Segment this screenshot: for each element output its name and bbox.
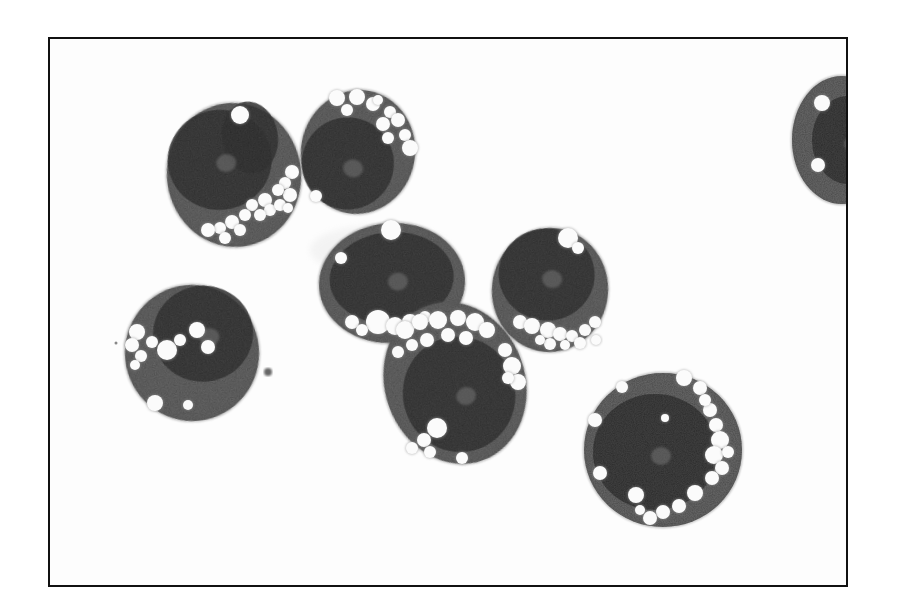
vacuole <box>502 372 514 384</box>
vacuole <box>283 203 293 213</box>
vacuole <box>588 413 602 427</box>
vacuole <box>535 335 545 345</box>
vacuole <box>234 224 246 236</box>
vacuole <box>616 381 628 393</box>
vacuole <box>174 334 186 346</box>
vacuole <box>441 328 455 342</box>
vacuole <box>553 327 567 341</box>
debris-particle <box>115 342 118 345</box>
vacuole <box>356 324 368 336</box>
vacuole <box>239 209 251 221</box>
vacuole <box>589 316 601 328</box>
vacuole <box>417 433 431 447</box>
vacuole <box>341 104 353 116</box>
vacuole <box>349 89 365 105</box>
nucleolus <box>651 447 671 465</box>
cells-layer <box>115 76 847 527</box>
debris-particle <box>264 368 272 376</box>
vacuole <box>382 132 394 144</box>
vacuole <box>420 333 434 347</box>
vacuole <box>406 339 418 351</box>
vacuole <box>376 117 390 131</box>
vacuole <box>479 322 495 338</box>
vacuole <box>310 190 322 202</box>
vacuole <box>125 338 139 352</box>
vacuole <box>672 499 686 513</box>
vacuole <box>705 471 719 485</box>
vacuole <box>396 321 414 339</box>
vacuole <box>429 311 447 329</box>
vacuole <box>456 452 468 464</box>
vacuole <box>709 418 723 432</box>
vacuole <box>427 418 447 438</box>
vacuole <box>146 336 158 348</box>
vacuole <box>661 414 669 422</box>
vacuole <box>593 466 607 480</box>
vacuole <box>402 140 418 156</box>
vacuole <box>412 314 428 330</box>
vacuole <box>656 505 670 519</box>
vacuole <box>591 335 601 345</box>
vacuole <box>450 310 466 326</box>
vacuole <box>381 220 401 240</box>
vacuole <box>643 511 657 525</box>
vacuole <box>544 338 556 350</box>
vacuole <box>628 487 644 503</box>
vacuole <box>272 184 284 196</box>
vacuole <box>219 232 231 244</box>
vacuole <box>693 381 707 395</box>
vacuole <box>635 505 645 515</box>
vacuole <box>147 395 163 411</box>
vacuole <box>811 158 825 172</box>
vacuole <box>130 360 140 370</box>
vacuole <box>231 106 249 124</box>
micrograph-image <box>50 39 846 585</box>
vacuole <box>183 400 193 410</box>
vacuole <box>687 485 703 501</box>
vacuole <box>283 188 297 202</box>
vacuole <box>189 322 205 338</box>
vacuole <box>399 129 411 141</box>
vacuole <box>572 242 584 254</box>
vacuole <box>406 442 418 454</box>
vacuole <box>335 252 347 264</box>
vacuole <box>560 340 570 350</box>
vacuole <box>329 90 345 106</box>
vacuole <box>373 95 383 105</box>
vacuole <box>699 394 711 406</box>
vacuole <box>524 318 540 334</box>
figure-frame <box>48 37 848 587</box>
vacuole <box>201 340 215 354</box>
vacuole <box>459 331 473 345</box>
vacuole <box>722 446 734 458</box>
vacuole <box>579 324 591 336</box>
vacuole <box>574 337 586 349</box>
vacuole <box>814 95 830 111</box>
vacuole <box>424 446 436 458</box>
vacuole <box>254 209 266 221</box>
vacuole <box>676 370 692 386</box>
vacuole <box>391 113 405 127</box>
vacuole <box>392 346 404 358</box>
vacuole <box>201 223 215 237</box>
vacuole <box>498 343 512 357</box>
